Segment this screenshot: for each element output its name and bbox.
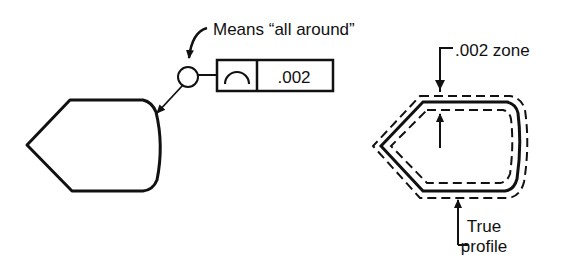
feature-control-frame <box>217 60 333 91</box>
leader-line <box>157 85 183 113</box>
all-around-pointer <box>189 28 207 58</box>
tolerance-zone-figure <box>373 96 527 198</box>
profile-of-a-surface-icon <box>225 72 249 84</box>
profile-tolerance-diagram: .002 Means “all around” .002 zone True p… <box>0 0 566 269</box>
all-around-label: Means “all around” <box>213 20 355 39</box>
true-profile-label-1: True <box>467 217 501 236</box>
tolerance-value: .002 <box>277 68 310 87</box>
true-profile-label-2: profile <box>461 237 507 256</box>
all-around-circle-icon <box>178 67 198 87</box>
zone-label: .002 zone <box>455 41 530 60</box>
part-outline <box>27 100 160 191</box>
